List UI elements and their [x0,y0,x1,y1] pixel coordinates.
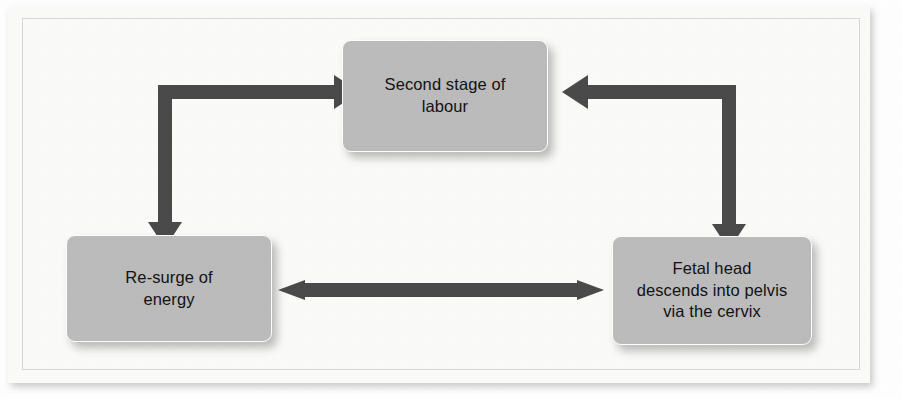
arrowhead-left-to-second-stage [562,75,588,109]
node-label: Second stage of labour [375,74,516,118]
node-fetal-head-descends: Fetal head descends into pelvis via the … [612,236,812,345]
connector-left-elbow [148,75,360,248]
node-label: Re-surge of energy [115,267,222,311]
node-label: Fetal head descends into pelvis via the … [627,258,798,323]
connector-right-elbow [562,75,746,250]
arrowhead-left-to-resurge [278,280,305,300]
figure-canvas: Second stage of labour Re-surge of energ… [0,0,902,399]
arrowhead-right-to-fetal-head [577,280,604,300]
node-re-surge-of-energy: Re-surge of energy [66,235,272,342]
node-second-stage-of-labour: Second stage of labour [342,40,548,152]
connector-bottom-link [278,280,604,300]
